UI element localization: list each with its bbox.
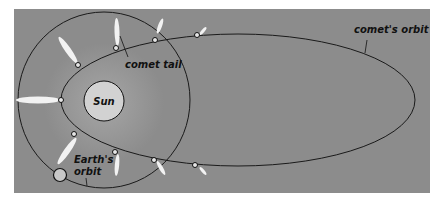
sun-label: Sun [93,96,114,107]
comet-position [72,132,77,137]
earths-orbit-label-line2: orbit [74,166,102,177]
comet-orbit-diagram: Sun comet tail comet's orbit Earth's orb… [0,0,436,204]
comet-position [76,63,81,68]
comet-tail-label: comet tail [125,59,182,70]
earths-orbit-label-line1: Earth's [74,154,113,165]
comet-tail [16,97,60,104]
comet-position [193,163,198,168]
comet-position [114,46,119,51]
comet-position [153,38,158,43]
comet-position [195,33,200,38]
earth [54,169,67,182]
comets-orbit-label: comet's orbit [354,24,430,35]
comet-position [152,158,157,163]
comet-position [59,98,64,103]
